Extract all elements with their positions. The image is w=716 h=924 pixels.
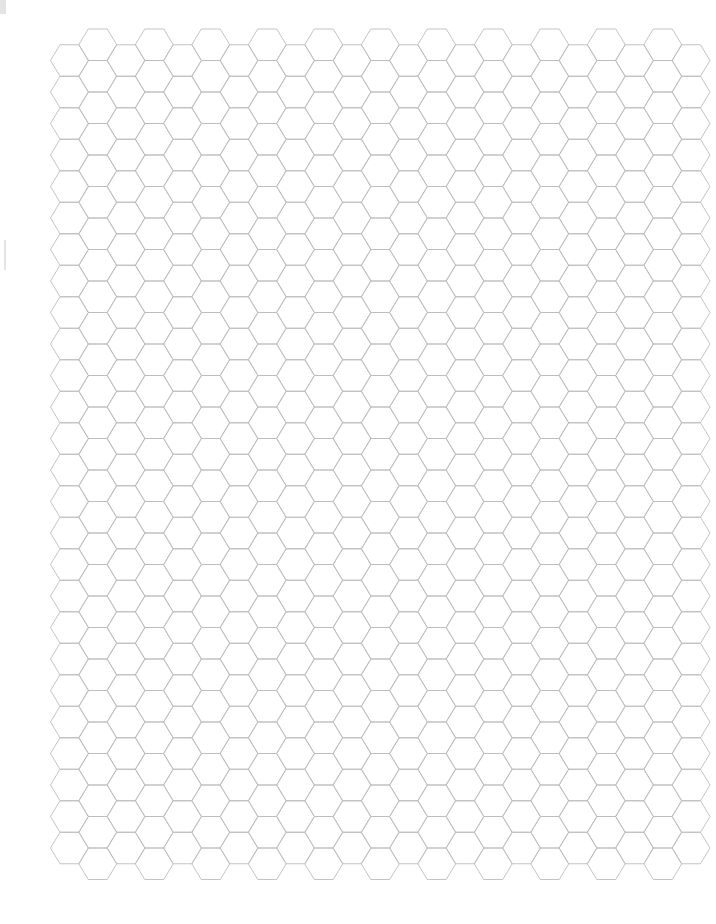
scan-mark-top-left xyxy=(0,0,6,14)
hex-grid-lines xyxy=(51,29,711,880)
graph-paper-page xyxy=(0,0,716,924)
scan-mark-left-edge xyxy=(4,240,6,270)
hex-grid xyxy=(0,0,716,924)
